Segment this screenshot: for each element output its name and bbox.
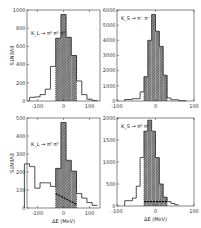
y-tick-label: 4000	[103, 37, 116, 43]
shaded-bar	[156, 158, 160, 206]
y-tick-label: 200	[16, 169, 26, 175]
y-axis-label: EVENTS	[9, 46, 15, 66]
process-label: K_S → π⁺ π⁻	[121, 15, 151, 22]
shaded-bar	[56, 38, 61, 101]
x-tick-label: 0	[62, 103, 65, 109]
shaded-bar	[148, 120, 152, 206]
y-tick-label: 800	[16, 25, 26, 31]
x-tick-label: 0	[154, 208, 157, 214]
process-label: K_S → π⁰ π⁰	[121, 123, 149, 130]
shaded-bar	[148, 40, 152, 101]
y-axis-label: EVENTS	[9, 153, 15, 173]
shaded-bar	[71, 56, 76, 102]
panel-bottom-right: 0500100015002000-1000100K_S → π⁰ π⁰ΔE (M…	[103, 115, 199, 222]
y-tick-label: 200	[16, 80, 26, 86]
y-tick-label: 400	[16, 61, 26, 67]
y-tick-label: 1000	[103, 159, 116, 165]
y-tick-label: 0	[22, 205, 25, 211]
y-tick-label: 1500	[103, 137, 116, 143]
y-tick-label: 6000	[103, 7, 116, 13]
y-tick-label: 1000	[13, 7, 26, 13]
y-tick-label: 1000	[103, 83, 116, 89]
y-tick-label: 2000	[103, 67, 116, 73]
x-tick-label: 100	[189, 103, 199, 109]
shaded-bar	[152, 15, 156, 101]
panel-top-left: 02004006008001000-1000100K_L → π⁰ π⁰ π⁰E…	[9, 7, 100, 109]
x-tick-label: 100	[189, 208, 199, 214]
x-tick-label: 100	[85, 210, 95, 216]
y-tick-label: 2000	[103, 115, 116, 121]
shaded-bar	[144, 77, 148, 101]
x-tick-label: 0	[154, 103, 157, 109]
shaded-bar	[152, 131, 156, 206]
x-tick-label: -100	[111, 208, 122, 214]
panel-top-right: 0100020003000400050006000-1000100K_S → π…	[103, 7, 199, 109]
shaded-bar	[61, 123, 66, 209]
panel-bottom-left: 0100200300400500-1000100K_L → π⁰ π⁰EVENT…	[9, 115, 100, 224]
x-axis-label: ΔE (MeV)	[52, 218, 75, 224]
y-tick-label: 500	[16, 115, 26, 121]
shaded-bar	[66, 37, 71, 101]
shaded-bar	[156, 31, 160, 101]
shaded-bar	[56, 168, 61, 208]
figure-canvas: 02004006008001000-1000100K_L → π⁰ π⁰ π⁰E…	[0, 0, 201, 228]
y-tick-label: 600	[16, 43, 26, 49]
x-tick-label: -100	[32, 103, 43, 109]
process-label: K_L → π⁰ π⁰	[31, 141, 59, 148]
x-axis-label: ΔE (MeV)	[144, 216, 167, 222]
y-tick-label: 5000	[103, 22, 116, 28]
y-tick-label: 100	[16, 187, 26, 193]
y-tick-label: 300	[16, 151, 26, 157]
process-label: K_L → π⁰ π⁰ π⁰	[31, 30, 65, 37]
shaded-bar	[61, 15, 66, 101]
y-tick-label: 400	[16, 133, 26, 139]
shaded-bar	[159, 46, 163, 101]
x-tick-label: 0	[62, 210, 65, 216]
y-tick-label: 500	[106, 181, 116, 187]
shaded-bar	[163, 75, 167, 101]
shaded-bar	[144, 131, 148, 206]
y-tick-label: 0	[22, 98, 25, 104]
x-tick-label: -100	[32, 210, 43, 216]
shaded-bar	[159, 184, 163, 206]
x-tick-label: -100	[111, 103, 122, 109]
y-tick-label: 3000	[103, 52, 116, 58]
x-tick-label: 100	[85, 103, 95, 109]
